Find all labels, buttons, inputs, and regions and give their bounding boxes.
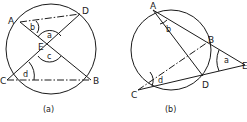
diagram-canvas: A D E C B b a c d (a) A B D C E b d a (b… bbox=[0, 0, 247, 122]
angle-arc-d bbox=[29, 62, 34, 80]
angle-label-b: b bbox=[166, 25, 171, 34]
angle-arc-b bbox=[36, 21, 39, 33]
figure-a: A D E C B b a c d (a) bbox=[0, 4, 99, 114]
chord-ad bbox=[20, 14, 80, 22]
point-label-a: A bbox=[8, 16, 15, 26]
secant-ae bbox=[153, 10, 245, 65]
figure-b: A B D C E b d a (b) bbox=[131, 1, 247, 114]
chord-ad bbox=[153, 10, 203, 76]
point-label-b: B bbox=[93, 76, 99, 86]
angle-label-b: b bbox=[30, 23, 35, 32]
caption-b: (b) bbox=[165, 105, 176, 114]
secant-ce bbox=[138, 65, 245, 90]
angle-label-a: a bbox=[224, 56, 229, 65]
caption-a: (a) bbox=[43, 105, 54, 114]
chord-cb bbox=[138, 42, 208, 90]
angle-label-c: c bbox=[47, 52, 51, 61]
angle-label-d: d bbox=[158, 76, 163, 85]
point-label-e: E bbox=[242, 61, 247, 71]
point-label-b: B bbox=[208, 35, 214, 45]
point-label-d: D bbox=[82, 6, 89, 16]
circle-b bbox=[131, 10, 211, 90]
point-label-a: A bbox=[150, 1, 157, 11]
point-label-c: C bbox=[131, 90, 137, 100]
angle-arc-a bbox=[217, 50, 219, 71]
angle-label-a: a bbox=[47, 31, 52, 40]
point-label-d: D bbox=[202, 80, 209, 90]
angle-label-d: d bbox=[23, 70, 28, 79]
point-label-c: C bbox=[0, 76, 6, 86]
point-label-e: E bbox=[38, 42, 44, 52]
